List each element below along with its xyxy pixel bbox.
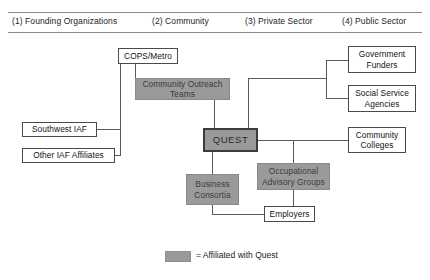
connector-bracket-to-social-service — [326, 98, 348, 99]
node-other-iaf-affiliates[interactable]: Other IAF Affiliates — [22, 148, 115, 163]
node-cops-metro[interactable]: COPS/Metro — [118, 48, 178, 64]
connector-quest-to-business-consortia — [212, 152, 213, 174]
connector-southwest-iaf-to-trunk — [97, 129, 120, 130]
node-social-service-agencies[interactable]: Social Service Agencies — [348, 85, 416, 112]
column-label-founding-organizations: (1) Founding Organizations — [12, 16, 117, 26]
connector-quest-to-community-colleges — [258, 140, 348, 141]
connector-outreach-to-quest — [214, 100, 215, 128]
connector-quest-to-public-vertical — [248, 78, 249, 128]
node-employers[interactable]: Employers — [264, 206, 315, 222]
connector-bracket-to-government-funders — [326, 60, 348, 61]
node-government-funders[interactable]: Government Funders — [348, 46, 416, 73]
header-rule-bottom — [8, 32, 422, 33]
header-rule-top — [8, 12, 422, 13]
connector-cops-to-outreach — [135, 64, 136, 78]
column-label-community: (2) Community — [152, 16, 209, 26]
connector-iaf-vertical-trunk — [120, 129, 121, 156]
connector-quest-to-public-horizontal — [248, 78, 326, 79]
column-label-private-sector: (3) Private Sector — [245, 16, 313, 26]
column-label-public-sector: (4) Public Sector — [342, 16, 406, 26]
node-business-consortia[interactable]: Business Consortia — [186, 174, 239, 205]
org-diagram: (1) Founding Organizations (2) Community… — [0, 0, 430, 280]
connector-occupational-groups-to-employers — [293, 190, 294, 206]
connector-business-consortia-down — [212, 205, 213, 214]
node-community-colleges[interactable]: Community Colleges — [348, 127, 406, 153]
node-southwest-iaf[interactable]: Southwest IAF — [22, 122, 97, 137]
node-quest[interactable]: QUEST — [203, 128, 258, 152]
connector-business-consortia-to-employers — [212, 214, 264, 215]
connector-quest-to-occupational-groups — [293, 140, 294, 163]
legend-label: = Affiliated with Quest — [196, 250, 278, 260]
connector-cops-left-trunk — [120, 64, 121, 136]
connector-public-bracket-vertical — [326, 60, 327, 98]
node-community-outreach-teams[interactable]: Community Outreach Teams — [135, 78, 230, 100]
node-occupational-advisory-groups[interactable]: Occupational Advisory Groups — [257, 163, 330, 190]
legend-swatch-affiliated — [165, 251, 191, 262]
